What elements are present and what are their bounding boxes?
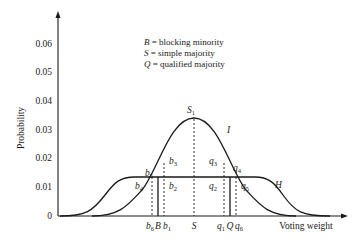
label-b2: b2: [169, 181, 177, 192]
x-axis-label: Voting weight: [279, 221, 333, 231]
xlabel-Q: Q: [227, 221, 234, 231]
xlabel-b6: b6: [146, 221, 155, 232]
y-tick-004: 0.04: [35, 96, 52, 106]
label-b4: b4: [135, 181, 144, 192]
legend-text-s: = simple majority: [149, 48, 215, 58]
region-labels: S1 I H b5 b3 b4 b2 q3 q4 q2 q5: [135, 105, 283, 192]
marker-lines: [152, 119, 236, 216]
legend-item-blocking: B = blocking minority: [144, 37, 224, 48]
label-S1: S1: [187, 105, 195, 116]
xlabel-B: B: [155, 221, 161, 231]
xlabel-S: S: [192, 221, 197, 231]
x-marker-labels: b6 B b1 S q1 Q q6: [146, 221, 244, 232]
legend-item-simple: S = simple majority: [144, 48, 215, 59]
legend-item-qualified: Q = qualified majority: [144, 59, 225, 70]
legend-text-b: = blocking minority: [150, 37, 224, 47]
legend-text-q: = qualified majority: [151, 59, 225, 69]
xlabel-q1: q1: [217, 221, 225, 232]
label-q2: q2: [209, 181, 217, 192]
y-tick-006: 0.06: [35, 39, 52, 49]
xlabel-b1: b1: [163, 221, 171, 232]
label-q5: q5: [241, 181, 249, 192]
y-tick-001: 0.01: [35, 182, 52, 192]
y-tick-labels: 0 0.01 0.02 0.03 0.04 0.05 0.06: [35, 39, 52, 221]
label-q3: q3: [209, 156, 217, 167]
y-tick-0: 0: [47, 211, 52, 221]
label-H: H: [274, 180, 283, 190]
label-q4: q4: [233, 163, 242, 174]
y-axis-arrow-icon: [56, 11, 61, 18]
label-b3: b3: [169, 156, 177, 167]
label-I: I: [226, 125, 231, 135]
curve-h: [60, 177, 330, 216]
y-tick-002: 0.02: [35, 153, 52, 163]
y-tick-003: 0.03: [35, 125, 52, 135]
y-axis-label: Probability: [16, 107, 26, 149]
label-b5: b5: [145, 168, 153, 179]
xlabel-q6: q6: [235, 221, 244, 232]
y-tick-005: 0.05: [35, 67, 52, 77]
x-axis-arrow-icon: [341, 214, 348, 219]
